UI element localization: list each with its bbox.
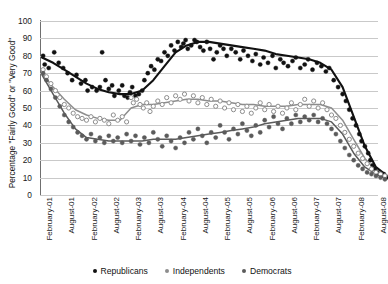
data-point xyxy=(254,123,258,127)
data-point xyxy=(162,50,166,54)
data-point xyxy=(329,127,333,131)
data-point xyxy=(160,144,164,148)
x-tick-label: February-07 xyxy=(312,197,321,241)
data-point xyxy=(53,96,57,100)
y-axis-ticks: 0102030405060708090100 xyxy=(0,21,36,195)
data-point xyxy=(205,141,209,145)
trend-line xyxy=(42,75,387,178)
data-point xyxy=(129,96,133,100)
data-point xyxy=(272,109,276,113)
trend-line xyxy=(42,42,387,176)
data-point xyxy=(205,102,209,106)
data-point xyxy=(369,167,373,171)
data-point xyxy=(58,96,62,100)
y-tick-label: 80 xyxy=(23,51,32,61)
data-point xyxy=(107,87,111,91)
data-point xyxy=(298,66,302,70)
data-point xyxy=(111,113,115,117)
data-point xyxy=(241,49,245,53)
data-point xyxy=(338,139,342,143)
data-point xyxy=(368,158,372,162)
data-point xyxy=(120,115,124,119)
data-point xyxy=(70,78,74,82)
data-point xyxy=(218,123,222,127)
y-tick-label: 20 xyxy=(23,155,32,165)
x-tick-label: August-02 xyxy=(112,197,121,233)
data-point xyxy=(95,89,99,93)
data-point xyxy=(165,134,169,138)
data-point xyxy=(174,146,178,150)
data-point xyxy=(361,156,365,160)
data-point xyxy=(79,82,83,86)
data-point xyxy=(178,136,182,140)
data-point xyxy=(76,115,80,119)
data-point xyxy=(90,85,94,89)
data-point xyxy=(61,66,65,70)
data-point xyxy=(236,102,240,106)
data-point xyxy=(285,106,289,110)
y-tick-label: 0 xyxy=(27,190,32,200)
data-point xyxy=(41,71,45,75)
data-point xyxy=(151,130,155,134)
data-point xyxy=(276,104,280,108)
data-point xyxy=(352,144,356,148)
x-tick-label: August-08 xyxy=(379,197,388,233)
data-point xyxy=(307,104,311,108)
data-point xyxy=(214,136,218,140)
data-point xyxy=(272,115,276,119)
y-tick-label: 90 xyxy=(23,33,32,43)
data-point xyxy=(321,101,325,105)
data-point xyxy=(107,122,111,126)
data-point xyxy=(130,85,134,89)
data-point xyxy=(166,54,170,58)
data-point xyxy=(280,111,284,115)
data-point xyxy=(196,127,200,131)
legend-item[interactable]: Democrats xyxy=(242,266,292,276)
chart-title-clipped xyxy=(0,0,384,9)
data-point xyxy=(347,137,351,141)
data-point xyxy=(53,89,57,93)
legend-item[interactable]: Republicans xyxy=(93,266,148,276)
data-point xyxy=(169,43,173,47)
data-point xyxy=(374,174,378,178)
data-point xyxy=(128,90,132,94)
data-point xyxy=(218,43,222,47)
data-point xyxy=(160,102,164,106)
data-point xyxy=(285,116,289,120)
data-point xyxy=(315,61,319,65)
data-point xyxy=(307,118,311,122)
legend-marker-icon xyxy=(165,269,169,273)
data-point xyxy=(196,101,200,105)
data-point xyxy=(117,89,121,93)
y-tick-label: 30 xyxy=(23,138,32,148)
data-point xyxy=(365,162,369,166)
data-point xyxy=(98,85,102,89)
data-point xyxy=(156,99,160,103)
data-point xyxy=(172,49,176,53)
data-point xyxy=(182,92,186,96)
data-point xyxy=(174,94,178,98)
data-point xyxy=(195,40,199,44)
data-point xyxy=(152,68,156,72)
data-point xyxy=(263,118,267,122)
data-point xyxy=(336,85,340,89)
data-point xyxy=(338,123,342,127)
legend-item[interactable]: Independents xyxy=(165,266,225,276)
y-tick-label: 60 xyxy=(23,86,32,96)
y-tick-label: 100 xyxy=(18,16,32,26)
data-point xyxy=(49,82,53,86)
y-tick-label: 70 xyxy=(23,68,32,78)
y-tick-label: 10 xyxy=(23,173,32,183)
data-point xyxy=(306,57,310,61)
data-point xyxy=(258,101,262,105)
data-point xyxy=(262,55,266,59)
data-point xyxy=(211,57,215,61)
data-point xyxy=(62,102,66,106)
data-point xyxy=(142,136,146,140)
data-point xyxy=(289,101,293,105)
data-point xyxy=(347,108,351,112)
data-point xyxy=(116,136,120,140)
data-point xyxy=(365,170,369,174)
data-point xyxy=(129,139,133,143)
